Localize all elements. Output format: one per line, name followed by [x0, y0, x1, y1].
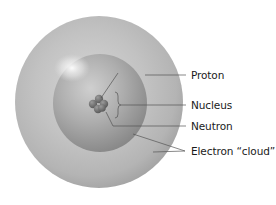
sphere-highlight [54, 54, 90, 82]
proton-label: Proton [191, 69, 224, 81]
atom-illustration [0, 0, 276, 205]
nucleus-label: Nucleus [191, 99, 232, 111]
neutron-label: Neutron [191, 120, 233, 132]
atom-diagram: Proton Nucleus Neutron Electron “cloud” [0, 0, 276, 205]
neutron-icon [98, 104, 106, 112]
electron-cloud-label: Electron “cloud” [191, 145, 275, 157]
